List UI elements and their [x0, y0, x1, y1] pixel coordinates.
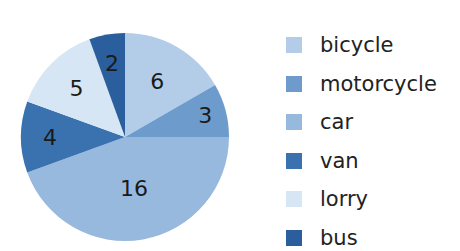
legend-item-car: car	[286, 103, 437, 142]
slice-label-bus: 2	[105, 51, 119, 76]
legend-label: bicycle	[320, 33, 393, 57]
legend-label: lorry	[320, 187, 368, 211]
legend-swatch	[286, 230, 302, 246]
legend: bicycle motorcycle car van lorry bus	[286, 26, 437, 251]
legend-swatch	[286, 114, 302, 130]
legend-item-van: van	[286, 142, 437, 181]
legend-label: bus	[320, 226, 358, 250]
slice-label-car: 16	[120, 176, 148, 201]
legend-swatch	[286, 37, 302, 53]
legend-label: motorcycle	[320, 72, 437, 96]
legend-item-motorcycle: motorcycle	[286, 65, 437, 104]
legend-label: van	[320, 149, 359, 173]
legend-item-bus: bus	[286, 219, 437, 251]
slice-label-motorcycle: 3	[198, 103, 212, 128]
slice-label-lorry: 5	[69, 76, 83, 101]
legend-label: car	[320, 110, 353, 134]
slice-label-van: 4	[43, 125, 57, 150]
legend-swatch	[286, 191, 302, 207]
legend-item-lorry: lorry	[286, 180, 437, 219]
legend-swatch	[286, 153, 302, 169]
legend-swatch	[286, 76, 302, 92]
pie-chart: 6316452	[0, 0, 250, 251]
legend-item-bicycle: bicycle	[286, 26, 437, 65]
slice-label-bicycle: 6	[150, 69, 164, 94]
